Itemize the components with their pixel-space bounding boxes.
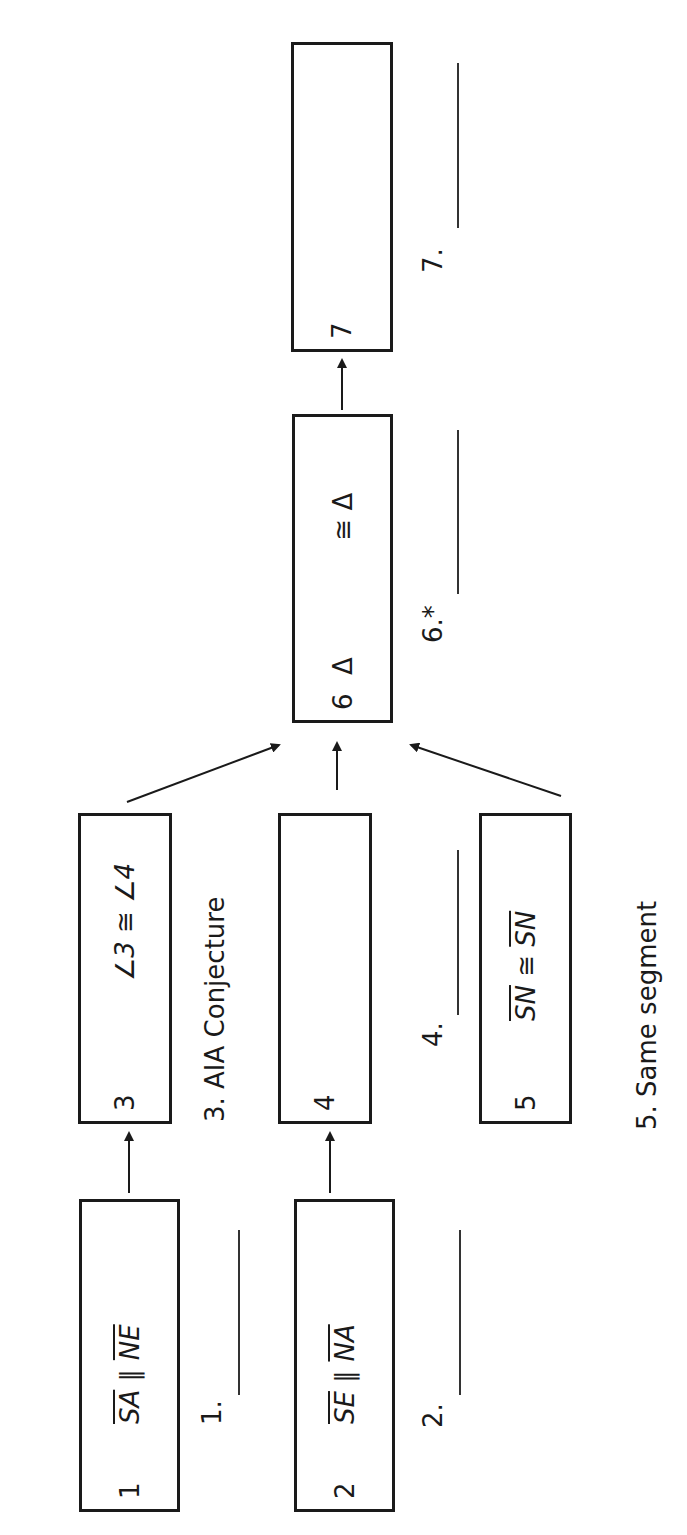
box-2-number: 2 — [330, 1482, 360, 1499]
reason-1-blank[interactable] — [238, 1230, 240, 1395]
reason-7-label: 7. — [418, 248, 448, 273]
segment-na: NA — [330, 1324, 360, 1361]
box-7: 7 — [291, 42, 393, 352]
reason-3-label: 3. AIA Conjecture — [200, 897, 230, 1122]
parallel-symbol: ∥ — [330, 1362, 360, 1392]
box-3-number: 3 — [110, 1094, 140, 1111]
box-5-statement: SN ≅ SN — [511, 911, 541, 1021]
triangle-symbol: Δ — [328, 493, 358, 511]
segment-ne: NE — [115, 1324, 145, 1360]
box-1-number: 1 — [115, 1482, 145, 1499]
reason-4-label: 4. — [418, 1022, 448, 1047]
flowchart-proof: 1 SA ∥ NE 1. 2 SE ∥ NA 2. 3 ∠3 ≅ ∠4 3. A… — [0, 0, 687, 1535]
reason-2-blank[interactable] — [459, 1230, 461, 1395]
reason-5-prefix: 5. — [632, 1105, 662, 1130]
reason-6-blank[interactable] — [457, 430, 459, 594]
box-1: 1 SA ∥ NE — [79, 1199, 180, 1512]
arrow-3-to-6 — [127, 745, 279, 802]
reason-4-blank[interactable] — [457, 850, 459, 1015]
segment-sn: SN — [511, 911, 541, 947]
arrow-5-to-6 — [411, 745, 561, 796]
box-4-number: 4 — [310, 1094, 340, 1111]
box-5-number: 5 — [511, 1094, 541, 1111]
box-2-statement: SE ∥ NA — [330, 1324, 360, 1424]
triangle-symbol: Δ — [328, 657, 358, 675]
box-2: 2 SE ∥ NA — [294, 1199, 395, 1512]
box-4: 4 — [278, 813, 372, 1124]
reason-6-label: 6.* — [418, 605, 448, 643]
box-7-number: 7 — [327, 322, 357, 339]
box-6-statement: Δ ≅ Δ — [328, 425, 358, 675]
reason-2-label: 2. — [418, 1403, 448, 1428]
box-3-statement: ∠3 ≅ ∠4 — [110, 863, 140, 981]
box-6: 6 Δ ≅ Δ — [292, 414, 393, 723]
congruent-symbol: ≅ — [328, 519, 358, 541]
segment-se: SE — [330, 1391, 360, 1424]
reason-1-label: 1. — [197, 1400, 227, 1425]
reason-5-text: Same segment — [632, 901, 662, 1097]
segment-sn: SN — [511, 985, 541, 1021]
box-1-statement: SA ∥ NE — [115, 1324, 145, 1424]
congruent-symbol: ≅ — [511, 947, 541, 985]
reason-3-prefix: 3. — [200, 1097, 230, 1122]
parallel-symbol: ∥ — [115, 1360, 145, 1390]
box-5: 5 SN ≅ SN — [479, 813, 572, 1124]
reason-3-text: AIA Conjecture — [200, 897, 230, 1089]
reason-7-blank[interactable] — [457, 63, 459, 228]
box-6-number: 6 — [328, 693, 358, 710]
box-3: 3 ∠3 ≅ ∠4 — [78, 813, 172, 1124]
reason-5-label: 5. Same segment — [632, 901, 662, 1130]
segment-sa: SA — [115, 1390, 145, 1424]
